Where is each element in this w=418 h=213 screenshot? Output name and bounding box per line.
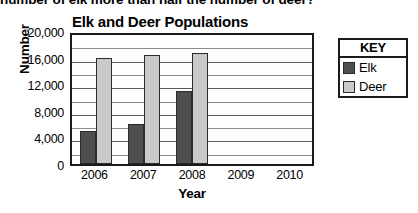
bar-elk-2008: [176, 91, 192, 164]
deer-swatch: [343, 81, 355, 93]
y-tick-label: 12,000: [6, 79, 64, 93]
x-tick-label: 2008: [168, 168, 217, 182]
legend-rows: ElkDeer: [340, 58, 406, 96]
bar-group-2007: [120, 35, 168, 164]
x-tick-label: 2007: [119, 168, 168, 182]
legend-title: KEY: [340, 40, 406, 58]
y-axis-tick-labels: 20,00016,00012,0008,0004,0000: [6, 0, 64, 213]
legend-item-elk: Elk: [340, 58, 406, 77]
bar-elk-2006: [80, 131, 96, 164]
y-tick-label: 20,000: [6, 26, 64, 40]
x-tick-label: 2010: [265, 168, 314, 182]
x-axis-tick-labels: 20062007200820092010: [70, 168, 314, 182]
x-axis-title: Year: [70, 186, 314, 201]
bar-group-2006: [72, 35, 120, 164]
legend: KEY ElkDeer: [338, 38, 408, 98]
bar-deer-2008: [192, 53, 208, 164]
legend-item-deer: Deer: [340, 77, 406, 96]
plot-area: [70, 33, 314, 166]
x-tick-label: 2006: [70, 168, 119, 182]
bar-deer-2006: [96, 58, 112, 164]
y-tick-label: 8,000: [6, 106, 64, 120]
elk-swatch: [343, 62, 355, 74]
bar-deer-2007: [144, 55, 160, 164]
x-tick-label: 2009: [216, 168, 265, 182]
legend-item-label: Elk: [359, 60, 376, 75]
bar-elk-2007: [128, 124, 144, 164]
y-tick-label: 0: [6, 159, 64, 173]
bar-group-2010: [264, 35, 312, 164]
bar-group-2009: [216, 35, 264, 164]
bar-group-2008: [168, 35, 216, 164]
y-tick-label: 4,000: [6, 132, 64, 146]
bar-groups: [72, 35, 312, 164]
legend-item-label: Deer: [359, 79, 386, 94]
y-tick-label: 16,000: [6, 53, 64, 67]
